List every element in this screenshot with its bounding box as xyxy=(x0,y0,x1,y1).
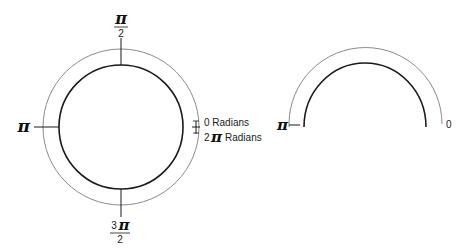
semicircle-diagram: π 0 xyxy=(276,48,452,134)
label-two-pi-coefficient: 2 xyxy=(204,132,210,143)
label-pi-over-2-numerator: π xyxy=(114,9,127,28)
label-zero-radians: 0 Radians xyxy=(204,117,249,128)
inner-circle xyxy=(59,65,183,189)
label-semicircle-pi: π xyxy=(276,116,289,134)
inner-semicircle xyxy=(304,63,426,127)
label-3pi-over-2-denominator: 2 xyxy=(117,234,123,245)
outer-semicircle xyxy=(289,48,442,124)
outer-circle xyxy=(43,49,199,205)
label-semicircle-zero: 0 xyxy=(446,119,452,130)
full-circle-diagram: π 2 π 3 π 2 0 Radians 2 π Radians xyxy=(17,9,262,245)
label-3pi-over-2-pi: π xyxy=(118,216,131,234)
label-pi: π xyxy=(17,116,31,136)
radians-diagram: π 2 π 3 π 2 0 Radians 2 π Radians π 0 xyxy=(0,0,472,251)
label-3pi-over-2-coefficient: 3 xyxy=(111,220,117,231)
label-two-pi-radians: Radians xyxy=(225,132,262,143)
label-pi-over-2-denominator: 2 xyxy=(118,28,124,39)
label-two-pi-symbol: π xyxy=(210,128,223,146)
